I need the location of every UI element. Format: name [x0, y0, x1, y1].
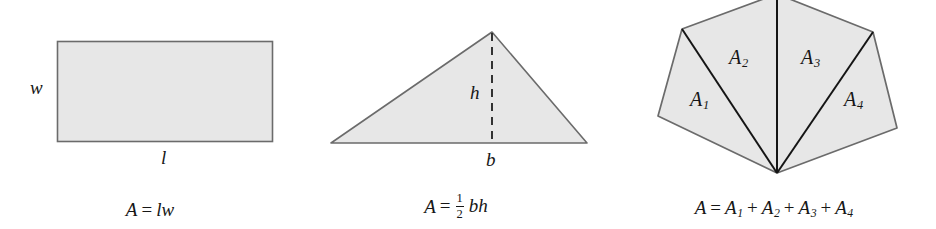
area-figures-panel: w l A=lw h b A=12bh A1 A2 A3 A4 A=A1+A2+… [0, 0, 936, 229]
triangle-shape [331, 32, 587, 143]
equals-sign: = [137, 199, 156, 220]
figure-polygon: A1 A2 A3 A4 A=A1+A2+A3+A4 [612, 0, 936, 229]
triangle-area-expression: bh [466, 195, 488, 216]
base-label: b [486, 150, 496, 169]
region-label-a3-symbol: A [801, 46, 813, 68]
formula-term-a4-symbol: A [835, 197, 847, 218]
formula-term-a3-subscript: 3 [810, 207, 816, 220]
length-label: l [161, 148, 166, 167]
region-label-a1: A1 [690, 89, 709, 112]
region-label-a1-subscript: 1 [702, 98, 709, 112]
area-symbol: A [126, 199, 138, 220]
formula-term-a4-subscript: 4 [847, 207, 853, 220]
polygon-diagram [612, 0, 936, 229]
area-symbol: A [424, 195, 436, 216]
equals-sign: = [436, 195, 455, 216]
region-label-a3-subscript: 3 [813, 56, 820, 70]
rectangle-area-formula: A=lw [0, 199, 300, 221]
figure-rectangle: w l A=lw [0, 0, 300, 229]
rectangle-diagram [0, 0, 300, 229]
width-label: w [30, 78, 43, 97]
formula-term-a1-symbol: A [725, 197, 737, 218]
fraction-numerator: 1 [456, 192, 464, 206]
formula-term-a1: A1 [725, 197, 743, 218]
region-label-a1-symbol: A [690, 88, 702, 110]
formula-term-a4: A4 [835, 197, 853, 218]
formula-term-a2: A2 [762, 197, 780, 218]
area-symbol: A [695, 197, 707, 218]
region-label-a2-symbol: A [729, 46, 741, 68]
region-label-a4-subscript: 4 [856, 98, 863, 112]
triangle-area-formula: A=12bh [300, 192, 612, 221]
rectangle-area-expression: lw [156, 199, 174, 220]
plus-sign-1: + [743, 197, 762, 218]
rectangle-shape [58, 42, 273, 142]
region-label-a4: A4 [844, 89, 863, 112]
plus-sign-3: + [817, 197, 836, 218]
formula-term-a3-symbol: A [799, 197, 811, 218]
figure-triangle: h b A=12bh [300, 0, 612, 229]
one-half-fraction: 12 [456, 192, 464, 221]
region-label-a3: A3 [801, 47, 820, 70]
region-label-a2: A2 [729, 47, 748, 70]
formula-term-a2-symbol: A [762, 197, 774, 218]
formula-term-a2-subscript: 2 [773, 207, 779, 220]
equals-sign: = [706, 197, 725, 218]
plus-sign-2: + [780, 197, 799, 218]
fraction-denominator: 2 [456, 206, 464, 221]
height-label: h [470, 83, 480, 102]
region-label-a2-subscript: 2 [741, 56, 748, 70]
region-label-a4-symbol: A [844, 88, 856, 110]
polygon-area-formula: A=A1+A2+A3+A4 [612, 197, 936, 221]
formula-term-a3: A3 [799, 197, 817, 218]
